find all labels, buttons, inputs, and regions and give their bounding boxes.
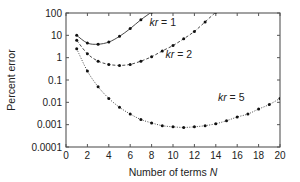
data-point: [129, 63, 132, 66]
data-point: [279, 97, 282, 100]
y-tick-label: 10: [51, 30, 63, 41]
data-point: [118, 35, 121, 38]
data-point: [97, 60, 100, 63]
data-point: [246, 113, 249, 116]
x-axis-label: Number of terms N: [129, 166, 218, 178]
data-point: [150, 121, 153, 124]
x-tick-label: 0: [63, 150, 69, 161]
data-point: [86, 42, 89, 45]
series-1: [75, 11, 153, 46]
data-point: [257, 108, 260, 111]
series-layer: [75, 11, 281, 129]
x-tick-label: 12: [189, 150, 201, 161]
data-point: [129, 113, 132, 116]
y-tick-label: 1: [56, 52, 62, 63]
data-point: [107, 41, 110, 44]
data-point: [118, 106, 121, 109]
data-point: [172, 125, 175, 128]
y-tick-label: 100: [45, 8, 62, 19]
data-point: [204, 124, 207, 127]
x-tick-label: 10: [167, 150, 179, 161]
y-tick-label: 0.01: [43, 97, 63, 108]
data-point: [97, 85, 100, 88]
x-tick-label: 6: [127, 150, 133, 161]
data-point: [118, 64, 121, 67]
data-point: [139, 60, 142, 63]
y-tick-label: 0.0001: [31, 142, 62, 153]
x-tick-label: 4: [106, 150, 112, 161]
series-label: kr = 2: [166, 48, 193, 60]
series-label: kr = 1: [149, 16, 176, 28]
data-point: [193, 125, 196, 128]
data-point: [236, 116, 239, 119]
data-point: [75, 34, 78, 37]
data-point: [182, 37, 185, 40]
x-tick-label: 20: [274, 150, 286, 161]
x-tick-label: 16: [232, 150, 244, 161]
data-point: [139, 118, 142, 121]
series-2: [75, 11, 217, 67]
data-point: [225, 119, 228, 122]
x-tick-label: 18: [253, 150, 265, 161]
data-point: [75, 47, 78, 50]
y-axis-label: Percent error: [5, 49, 17, 111]
y-tick-label: 0.001: [37, 119, 62, 130]
data-point: [204, 20, 207, 23]
data-point: [97, 43, 100, 46]
data-point: [139, 18, 142, 21]
y-axis-ticks: 0.00010.0010.010.1110100: [31, 8, 280, 153]
data-point: [268, 103, 271, 106]
data-point: [86, 52, 89, 55]
data-point: [182, 126, 185, 129]
data-point: [107, 97, 110, 100]
x-tick-label: 2: [85, 150, 91, 161]
data-point: [214, 11, 217, 14]
y-tick-label: 0.1: [48, 75, 62, 86]
x-tick-label: 14: [210, 150, 222, 161]
data-point: [75, 39, 78, 42]
data-point: [161, 124, 164, 127]
data-point: [193, 30, 196, 33]
data-point: [107, 63, 110, 66]
percent-error-chart: 02468101214161820 0.00010.0010.010.11101…: [0, 0, 300, 182]
data-point: [161, 49, 164, 52]
series-labels: kr = 1kr = 2kr = 5: [149, 16, 244, 102]
data-point: [86, 70, 89, 73]
data-point: [129, 27, 132, 30]
data-point: [214, 122, 217, 125]
series-label: kr = 5: [218, 91, 245, 103]
data-point: [172, 44, 175, 47]
x-tick-label: 8: [149, 150, 155, 161]
data-point: [150, 11, 153, 14]
data-point: [150, 55, 153, 58]
